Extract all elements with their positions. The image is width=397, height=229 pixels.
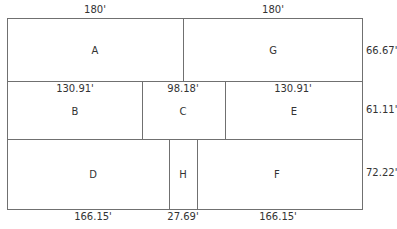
row-divider-1: [7, 81, 363, 82]
region-c-label: C: [180, 106, 187, 118]
divider-h-f: [197, 139, 198, 210]
dim-row2-e: 130.91': [274, 83, 312, 95]
region-g-label: G: [269, 45, 277, 57]
outer-border-top: [7, 18, 363, 19]
dim-top-right: 180': [262, 4, 284, 16]
dim-top-left: 180': [84, 4, 106, 16]
dim-bottom-h: 27.69': [167, 211, 198, 223]
dim-right-row2: 61.11': [366, 104, 397, 116]
dim-right-row3: 72.22': [366, 167, 397, 179]
region-a-label: A: [92, 45, 99, 57]
dim-right-row1: 66.67': [366, 45, 397, 57]
dim-bottom-f: 166.15': [259, 211, 297, 223]
region-h-label: H: [179, 169, 187, 181]
row-divider-2: [7, 139, 363, 140]
divider-a-g: [183, 18, 184, 82]
region-f-label: F: [274, 169, 280, 181]
region-b-label: B: [72, 106, 79, 118]
outer-border-left: [7, 18, 8, 210]
outer-border-bottom: [7, 209, 363, 210]
dim-row2-b: 130.91': [56, 83, 94, 95]
divider-b-c: [142, 81, 143, 140]
outer-border-right: [362, 18, 363, 210]
dim-row2-c: 98.18': [167, 83, 198, 95]
region-e-label: E: [291, 106, 297, 118]
divider-c-e: [225, 81, 226, 140]
region-d-label: D: [89, 169, 97, 181]
dim-bottom-d: 166.15': [74, 211, 112, 223]
divider-d-h: [169, 139, 170, 210]
